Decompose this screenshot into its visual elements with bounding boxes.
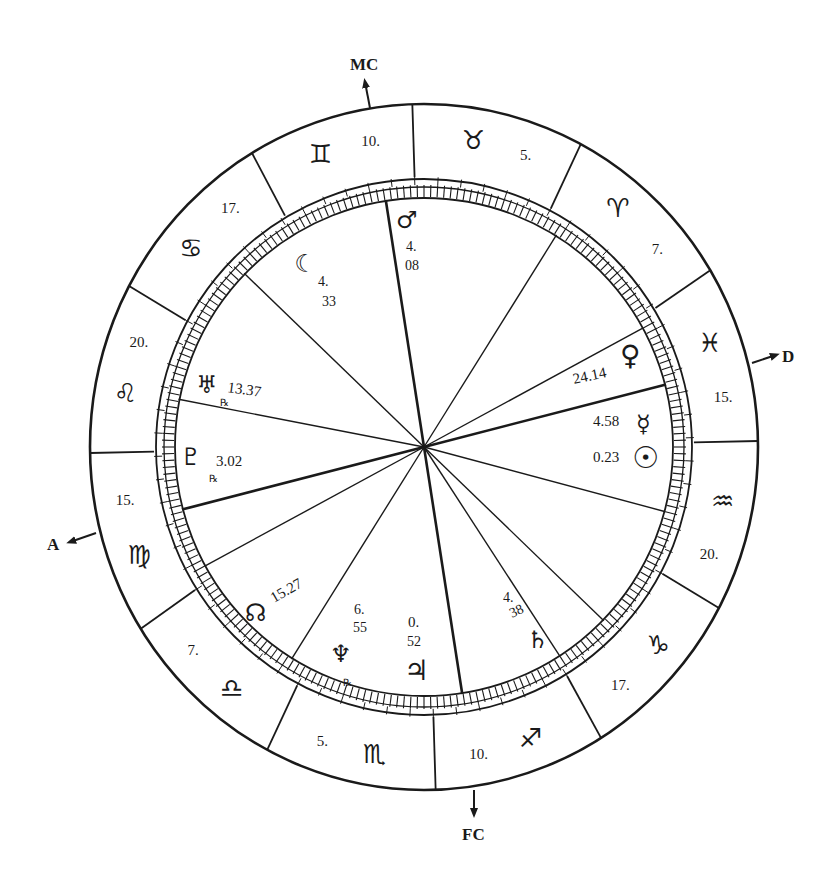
degree-tick [586, 637, 594, 646]
degree-tick [605, 619, 614, 627]
degree-tick [197, 572, 207, 578]
degree-tick [204, 304, 214, 311]
planet-sun: 0.23 ☉ [593, 440, 659, 475]
degree-tick [605, 267, 614, 275]
venus-position: 24.14 [571, 364, 608, 387]
planet-north-node: ☊ 15.27 [245, 575, 305, 627]
degree-tick [637, 310, 647, 316]
aries-cusp-degree: 7. [652, 241, 663, 257]
degree-tick [259, 641, 267, 650]
degree-tick [549, 664, 555, 674]
degree-tick [614, 609, 623, 617]
sign-boundary [662, 574, 719, 608]
house-cusp-line [424, 384, 666, 447]
degree-tick [626, 293, 636, 300]
sign-boundary [141, 590, 195, 629]
aquarius-sign-icon: ♒︎ [711, 486, 734, 516]
sun-position: 0.23 [593, 449, 619, 465]
degree-tick [208, 589, 218, 596]
degree-tick [410, 697, 411, 709]
sagittarius-sign-icon: ♐︎ [519, 723, 542, 753]
planet-moon: ☽ 4. 33 [294, 248, 336, 309]
house-cusp-line [386, 200, 424, 447]
degree-tick [265, 645, 272, 655]
degree-tick [626, 594, 636, 601]
degree-tick [265, 239, 272, 249]
degree-tick [281, 657, 288, 667]
degree-tick [537, 670, 542, 681]
planet-pluto: ♇ 3.02 ℞ [180, 443, 242, 484]
degree-tick [576, 645, 583, 655]
degree-tick [249, 252, 257, 261]
mars-icon: ♂ [396, 206, 418, 234]
degree-tick [229, 272, 238, 280]
degree-tick [216, 288, 226, 295]
degree-tick [571, 649, 578, 659]
degree-tick [162, 460, 174, 461]
planet-venus: 24.14 ♀ [571, 339, 640, 387]
degree-tick [212, 293, 222, 300]
capricorn-cusp-degree: 17. [611, 677, 630, 693]
mars-position-min: 08 [405, 258, 419, 273]
sign-boundary [252, 153, 285, 216]
degree-tick [212, 594, 222, 601]
degree-tick [581, 641, 589, 650]
scorpio-sign-icon: ♏︎ [363, 739, 386, 769]
degree-tick [618, 282, 627, 290]
north-node-icon: ☊ [245, 599, 266, 627]
saturn-position-deg: 4. [503, 590, 514, 605]
degree-tick [220, 282, 229, 290]
cancer-cusp-degree: 17. [221, 200, 240, 216]
degree-tick [537, 214, 542, 225]
degree-tick [644, 566, 655, 572]
sign-boundary [433, 717, 435, 790]
house-cusp-line [424, 235, 556, 447]
degree-tick [293, 220, 299, 230]
uranus-icon: ♅ [196, 371, 218, 399]
degree-tick [208, 299, 218, 306]
degree-tick [259, 243, 267, 252]
degree-tick [586, 248, 594, 257]
degree-tick [201, 578, 211, 584]
asc-label: A [47, 535, 60, 554]
degree-tick [641, 572, 651, 578]
libra-sign-icon: ♎︎ [220, 673, 243, 703]
sagittarius-cusp-degree: 10. [469, 746, 488, 762]
degree-tick [674, 433, 686, 434]
degree-tick [254, 248, 262, 257]
degree-tick [630, 299, 640, 306]
degree-tick [591, 252, 599, 261]
planet-neptune: 6. 55 ♆ ℞ [330, 602, 367, 688]
planet-mercury: 4.58 ☿ [593, 410, 651, 438]
mc-arrow [365, 82, 370, 108]
degree-tick [618, 604, 627, 612]
degree-tick [244, 257, 252, 266]
moon-position-min: 33 [322, 294, 336, 309]
mercury-position: 4.58 [593, 413, 619, 429]
neptune-icon: ♆ [330, 640, 352, 668]
house-cusp-line [424, 447, 604, 621]
degree-tick [644, 322, 655, 328]
degree-tick [647, 560, 658, 565]
degree-tick [601, 624, 609, 632]
pluto-retrograde-icon: ℞ [209, 473, 218, 484]
desc-arrow [752, 355, 776, 363]
degree-tick [305, 670, 310, 681]
degree-tick [555, 660, 561, 670]
degree-tick [276, 653, 283, 663]
degree-tick [634, 583, 644, 590]
virgo-cusp-degree: 15. [116, 492, 135, 508]
degree-tick [641, 316, 651, 322]
degree-tick [437, 185, 438, 197]
degree-tick [576, 239, 583, 249]
venus-icon: ♀ [620, 339, 641, 372]
horoscope-chart: ♉︎5.♊︎10.♋︎17.♌︎20.♍︎15.♎︎7.♏︎5.♐︎10.♑︎1… [0, 0, 840, 884]
house-cusp-line [179, 399, 424, 447]
neptune-retrograde-icon: ℞ [343, 677, 352, 688]
degree-tick [234, 619, 243, 627]
degree-tick [549, 220, 555, 230]
degree-tick [244, 628, 252, 637]
moon-position-deg: 4. [318, 274, 329, 289]
pluto-icon: ♇ [180, 443, 202, 471]
degree-tick [225, 277, 234, 285]
